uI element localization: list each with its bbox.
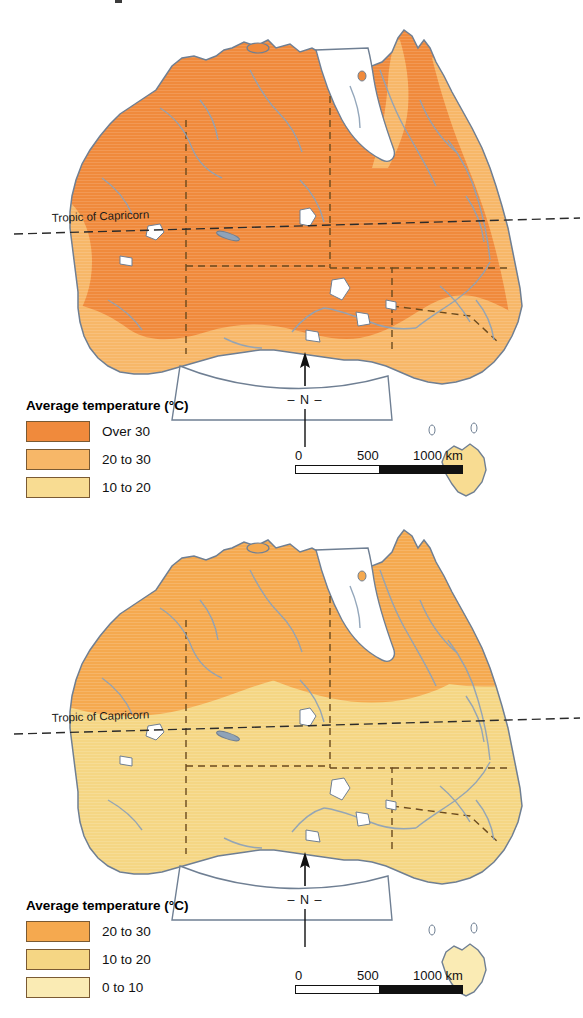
january-legend-swatch-20-to-30 (26, 449, 90, 470)
july-legend-label-0-to-10: 0 to 10 (102, 980, 143, 995)
january-legend-swatch-10-to-20 (26, 477, 90, 498)
january-island-melville (247, 43, 269, 53)
january-legend-row-over-30: Over 30 (26, 419, 188, 443)
july-legend-row-0-to-10: 0 to 10 (26, 975, 188, 999)
july-legend-row-20-to-30: 20 to 30 (26, 919, 188, 943)
july-north-right-dash: – (315, 893, 323, 907)
july-north-arrow: – N – (275, 852, 335, 953)
january-legend-label-over-30: Over 30 (102, 424, 150, 439)
january-north-left-dash: – (288, 393, 296, 407)
july-legend-title: Average temperature (°C) (26, 898, 188, 913)
july-north-letter: N (300, 893, 310, 907)
january-scalebar-track (295, 465, 463, 474)
july-north-arrow-tail (275, 909, 335, 949)
january-scalebar-ticks: 0 500 1000 km (295, 448, 485, 465)
scan-artifact-speck (115, 0, 122, 3)
january-north-right-dash: – (315, 393, 323, 407)
january-north-arrow-icon (275, 352, 335, 388)
january-scale-tick-0: 0 (295, 448, 302, 463)
july-scalebar-ticks: 0 500 1000 km (295, 968, 485, 985)
july-island-melville (247, 543, 269, 553)
july-scalebar-track (295, 985, 463, 994)
january-legend-label-20-to-30: 20 to 30 (102, 452, 151, 467)
july-scalebar-segment-dark (379, 986, 462, 993)
january-island-groote (358, 71, 366, 81)
july-legend-label-10-to-20: 10 to 20 (102, 952, 151, 967)
january-legend-title: Average temperature (°C) (26, 398, 188, 413)
january-legend-row-20-to-30: 20 to 30 (26, 447, 188, 471)
july-north-left-dash: – (288, 893, 296, 907)
july-island-flinders (471, 923, 477, 933)
january-north-letter: N (300, 393, 310, 407)
july-map-panel: July (0, 520, 583, 1018)
january-island-king (429, 425, 435, 435)
july-island-groote (358, 571, 366, 581)
january-scale-tick-1000: 1000 km (413, 448, 463, 463)
july-legend-swatch-20-to-30 (26, 921, 90, 942)
january-legend: Average temperature (°C) Over 30 20 to 3… (26, 398, 188, 503)
july-legend-row-10-to-20: 10 to 20 (26, 947, 188, 971)
january-map-panel: January (0, 0, 583, 520)
july-scalebar: 0 500 1000 km (295, 968, 485, 994)
july-scale-tick-500: 500 (357, 968, 379, 983)
july-legend: Average temperature (°C) 20 to 30 10 to … (26, 898, 188, 1003)
january-north-arrow-label: – N – (275, 394, 335, 407)
january-island-flinders (471, 423, 477, 433)
january-scalebar: 0 500 1000 km (295, 448, 485, 474)
january-legend-swatch-over-30 (26, 421, 90, 442)
january-scalebar-segment-dark (379, 466, 462, 473)
january-north-arrow-tail (275, 409, 335, 449)
january-north-arrow: – N – (275, 352, 335, 453)
july-scalebar-segment-light (296, 986, 379, 993)
january-legend-row-10-to-20: 10 to 20 (26, 475, 188, 499)
july-north-arrow-label: – N – (275, 894, 335, 907)
january-legend-label-10-to-20: 10 to 20 (102, 480, 151, 495)
july-legend-label-20-to-30: 20 to 30 (102, 924, 151, 939)
july-scale-tick-1000: 1000 km (413, 968, 463, 983)
july-island-king (429, 925, 435, 935)
july-legend-swatch-0-to-10 (26, 977, 90, 998)
january-scale-tick-500: 500 (357, 448, 379, 463)
july-legend-swatch-10-to-20 (26, 949, 90, 970)
january-scalebar-segment-light (296, 466, 379, 473)
july-scale-tick-0: 0 (295, 968, 302, 983)
july-north-arrow-icon (275, 852, 335, 888)
